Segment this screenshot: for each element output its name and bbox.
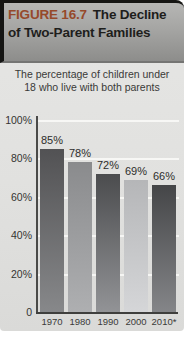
- gridline-100: [38, 120, 179, 122]
- figure-number-label: FIGURE 16.7: [8, 7, 87, 22]
- chart-area: 85%197078%198072%199069%200066%2010*100%…: [0, 112, 184, 331]
- bar-1990: [96, 174, 120, 312]
- figure-subtitle: The percentage of children under 18 who …: [0, 68, 184, 94]
- y-tick-label-80: 80%: [0, 152, 32, 164]
- y-tick-label-100: 100%: [0, 114, 32, 126]
- bar-value-label-2010*: 66%: [148, 170, 180, 182]
- bar-2000: [124, 180, 148, 312]
- y-tick-label-60: 60%: [0, 191, 32, 203]
- bar-1970: [40, 149, 64, 312]
- y-tick-label-40: 40%: [0, 229, 32, 241]
- page-margin: [0, 331, 184, 344]
- x-tick-label-2010*: 2010*: [147, 316, 181, 327]
- y-tick-label-20: 20%: [0, 268, 32, 280]
- y-tick-label-0: 0: [0, 306, 32, 318]
- x-axis-line: [36, 312, 178, 314]
- bar-1980: [68, 162, 92, 312]
- y-axis-line: [36, 116, 38, 314]
- bar-2010*: [152, 185, 176, 312]
- figure-card: FIGURE 16.7The Decline of Two-Parent Fam…: [0, 0, 184, 331]
- bar-value-label-1970: 85%: [36, 134, 68, 146]
- bar-value-label-1980: 78%: [64, 147, 96, 159]
- figure-header: FIGURE 16.7The Decline of Two-Parent Fam…: [0, 0, 184, 63]
